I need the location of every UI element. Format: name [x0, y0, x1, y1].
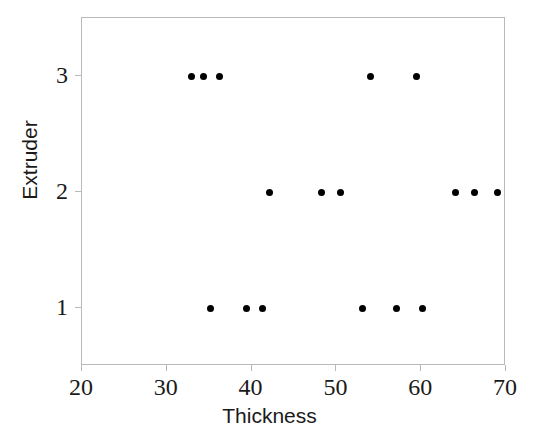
x-tick-mark: [81, 365, 82, 371]
x-tick-mark: [166, 365, 167, 371]
x-tick-label: 70: [475, 373, 535, 401]
x-tick-mark: [251, 365, 252, 371]
data-point: [243, 305, 250, 312]
x-axis-label: Thickness: [0, 403, 539, 428]
data-point: [419, 305, 426, 312]
y-axis-label-wrapper: Extruder: [15, 60, 45, 260]
data-point: [413, 73, 420, 80]
data-point: [393, 305, 400, 312]
x-tick-label: 40: [221, 373, 281, 401]
x-tick-label: 20: [51, 373, 111, 401]
plot-frame: [81, 17, 505, 365]
x-tick-mark: [420, 365, 421, 371]
y-tick-mark: [75, 75, 81, 76]
data-point: [318, 189, 325, 196]
x-tick-label: 30: [136, 373, 196, 401]
data-point: [359, 305, 366, 312]
data-point: [266, 189, 273, 196]
scatter-plot-figure: 203040506070 123 Thickness Extruder: [0, 0, 539, 444]
y-tick-label: 1: [40, 292, 68, 322]
x-tick-mark: [335, 365, 336, 371]
data-point: [200, 73, 207, 80]
data-point: [494, 189, 501, 196]
data-point: [337, 189, 344, 196]
data-point: [452, 189, 459, 196]
x-tick-label: 60: [390, 373, 450, 401]
data-point: [367, 73, 374, 80]
y-tick-mark: [75, 191, 81, 192]
data-point: [207, 305, 214, 312]
y-tick-mark: [75, 307, 81, 308]
data-point: [259, 305, 266, 312]
data-point: [216, 73, 223, 80]
y-axis-label: Extruder: [15, 60, 45, 260]
x-tick-label: 50: [305, 373, 365, 401]
data-point: [471, 189, 478, 196]
data-point: [188, 73, 195, 80]
plot-data-area: [82, 18, 504, 364]
x-tick-mark: [505, 365, 506, 371]
